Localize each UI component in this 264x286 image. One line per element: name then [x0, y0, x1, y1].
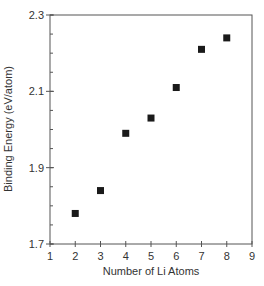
binding-energy-scatter-chart: 1.71.92.12.3 123456789 Number of Li Atom…: [0, 0, 264, 286]
data-point-square: [122, 130, 129, 137]
x-axis-title: Number of Li Atoms: [103, 265, 200, 277]
x-tick-label: 4: [123, 250, 129, 262]
data-points: [72, 34, 231, 217]
x-tick-label: 6: [173, 250, 179, 262]
y-tick-label: 2.1: [29, 85, 44, 97]
y-tick-label: 2.3: [29, 9, 44, 21]
x-tick-label: 8: [224, 250, 230, 262]
plot-border: [50, 15, 252, 244]
y-tick-label: 1.7: [29, 238, 44, 250]
data-point-square: [148, 115, 155, 122]
data-point-square: [97, 187, 104, 194]
x-tick-label: 9: [249, 250, 255, 262]
plot-frame: [50, 15, 252, 244]
x-tick-label: 7: [198, 250, 204, 262]
data-point-square: [72, 210, 79, 217]
x-tick-label: 5: [148, 250, 154, 262]
y-axis-title: Binding Energy (eV/atom): [2, 66, 14, 192]
data-point-square: [173, 84, 180, 91]
x-tick-label: 1: [47, 250, 53, 262]
x-tick-label: 2: [72, 250, 78, 262]
x-tick-label: 3: [97, 250, 103, 262]
data-point-square: [198, 46, 205, 53]
data-point-square: [223, 34, 230, 41]
y-tick-label: 1.9: [29, 162, 44, 174]
